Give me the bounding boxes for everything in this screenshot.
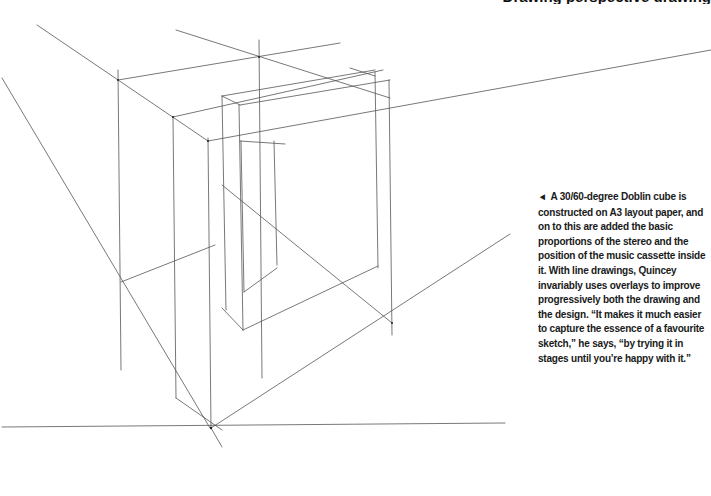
figure-caption: ◄ A 30/60-degree Doblin cube is construc… [538, 189, 711, 365]
stereo-right-front-vertical [389, 80, 392, 335]
horizon-line [2, 423, 505, 427]
cube-floor-diagonal [222, 185, 392, 323]
cube-top-left-edge [37, 25, 208, 141]
cube-left-floor-line [121, 245, 215, 282]
stereo-top-front [240, 80, 390, 105]
stereo-left-vertical [222, 96, 226, 310]
vertex-dot [258, 56, 260, 58]
cassette-right [274, 141, 277, 265]
stereo-bottom-front [243, 266, 378, 330]
vertex-dot [172, 116, 174, 118]
cube-top-back-edge [118, 43, 340, 80]
cube-mid-vertical [173, 117, 176, 398]
cube-right-top-diagonal [176, 30, 390, 98]
cube-bottom-front-edge [211, 234, 510, 428]
cube-bottom-extension [211, 428, 222, 447]
cube-left-receding-line [2, 78, 210, 428]
cassette-bottom [244, 268, 277, 292]
vertex-dot [391, 322, 393, 324]
vertex-dot [207, 140, 209, 142]
center-guide-vertical [259, 40, 262, 378]
cube-front-vertical [208, 138, 211, 428]
cube-top-mid-edge [173, 70, 383, 117]
cassette-top [240, 141, 285, 144]
stereo-bottom-left [222, 308, 243, 330]
cube-back-vertical [118, 70, 121, 370]
vertex-dot [117, 79, 119, 81]
stereo-right-back-vertical [375, 72, 378, 268]
caption-text: A 30/60-degree Doblin cube is constructe… [538, 190, 705, 364]
cube-top-front-edge [208, 50, 711, 141]
vertex-dot [210, 427, 212, 429]
stereo-top-back [222, 70, 375, 96]
cassette-left [241, 141, 244, 292]
left-pointer-icon: ◄ [538, 191, 546, 202]
